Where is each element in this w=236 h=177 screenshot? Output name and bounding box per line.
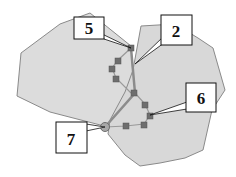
label-7-text: 7 xyxy=(67,130,76,149)
node[interactable] xyxy=(131,90,137,96)
node[interactable] xyxy=(142,102,148,108)
diagram-canvas: 5 2 6 7 xyxy=(0,0,236,177)
node[interactable] xyxy=(113,76,119,82)
label-6-text: 6 xyxy=(197,89,206,108)
label-5-text: 5 xyxy=(85,19,94,38)
node[interactable] xyxy=(123,123,129,129)
node[interactable] xyxy=(109,66,115,72)
node[interactable] xyxy=(141,122,147,128)
callout-7: 7 xyxy=(56,122,105,153)
label-2-text: 2 xyxy=(172,22,181,41)
node[interactable] xyxy=(115,58,121,64)
